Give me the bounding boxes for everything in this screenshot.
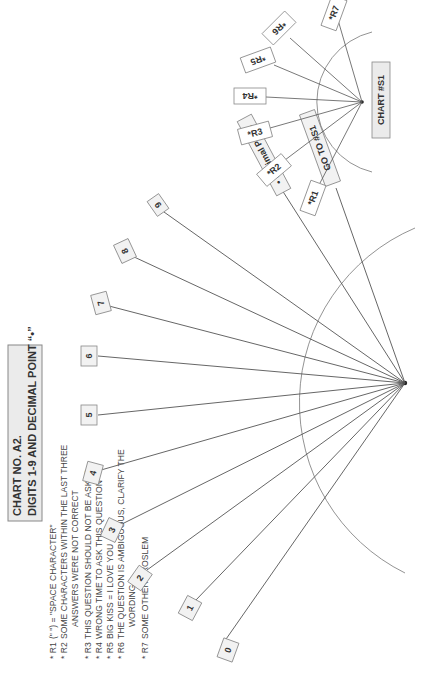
legend-text: (" ") = "SPACE CHARACTER" (48, 525, 58, 639)
legend-code: * R3 (83, 642, 93, 659)
svg-text:6: 6 (84, 353, 94, 358)
digit-label-7: 7 (91, 291, 112, 314)
legend-text: BIG KISS = I LOVE YOU (105, 544, 115, 639)
digit-label-0: 0 (217, 638, 239, 662)
legend-code: * R6 (116, 642, 126, 659)
digit-label-6: 6 (81, 346, 97, 366)
svg-text:5: 5 (84, 412, 94, 417)
legend-text: THE QUESTION IS AMBIGUOUS, CLARIFY THE (116, 449, 126, 639)
legend-code: * R2 (59, 642, 69, 659)
sub-title-box: CHART #S1 (372, 62, 390, 138)
legend-text: WORDING (127, 584, 137, 627)
legend-code: * R7 (140, 642, 150, 659)
r6-label: *R6 (262, 11, 296, 45)
chart-canvas: CHART NO. A2. DIGITS 1-9 AND DECIMAL POI… (0, 0, 422, 673)
legend-code: * R1 (48, 642, 58, 659)
r1-label: *R1 (300, 180, 326, 216)
digit-label-8: 8 (114, 239, 137, 264)
main-arc (299, 228, 415, 573)
legend-text: SOME CHARACTERS WITHIN THE LAST THREE (59, 444, 69, 639)
legend-title-line1: CHART NO. A2. (11, 435, 23, 516)
legend-text: THIS QUESTION SHOULD NOT BE ASKED (83, 469, 93, 639)
legend-text: ANSWERS WERE NOT CORRECT (70, 489, 80, 627)
legend-text: WRONG TIME TO ASK THIS QUESTION (94, 480, 104, 639)
legend-title-line2: DIGITS 1-9 AND DECIMAL POINT “•” (26, 326, 38, 516)
svg-text:CHART #S1: CHART #S1 (376, 75, 386, 125)
legend-code: * R5 (105, 642, 115, 659)
r5-label: *R5 (240, 47, 276, 73)
legend-code: * R4 (94, 642, 104, 659)
r4-label: *R4 (234, 88, 266, 104)
digit-label-5: 5 (81, 405, 97, 425)
legend: CHART NO. A2. DIGITS 1-9 AND DECIMAL POI… (8, 326, 150, 659)
digit-label-1: 1 (178, 595, 202, 620)
r7-label: *R7 (321, 0, 347, 31)
goto-s1-label: GO TO #S1 (299, 110, 340, 187)
svg-text:*R4: *R4 (242, 91, 257, 101)
